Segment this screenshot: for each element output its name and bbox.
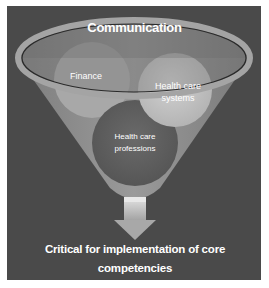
health-care-professions-label: Health care professions [100, 131, 170, 155]
finance-label: Finance [70, 71, 102, 81]
conclusion-text: Critical for implementation of core comp… [10, 240, 260, 278]
health-care-systems-label: Health care systems [140, 80, 216, 104]
diagram-title: Communication [0, 20, 269, 35]
down-arrow-icon [114, 197, 156, 240]
